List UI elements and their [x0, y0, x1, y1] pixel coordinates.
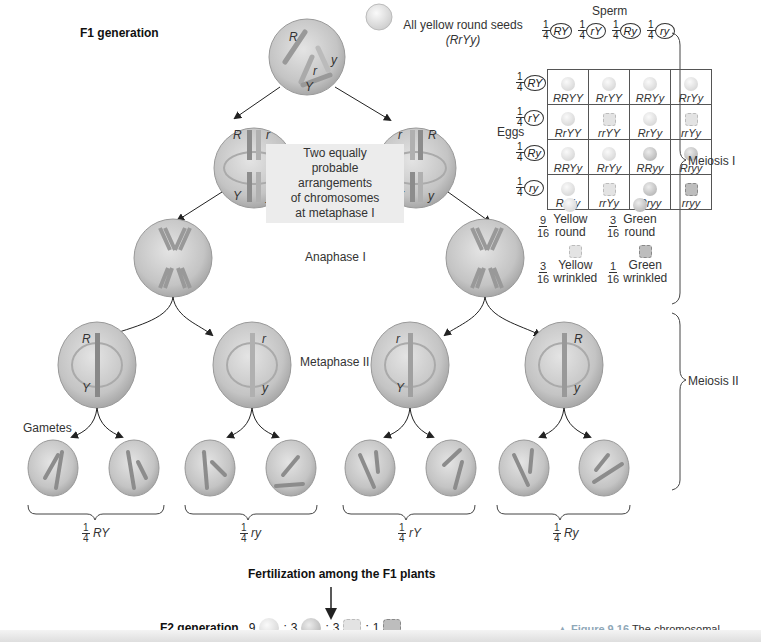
fertilization-label: Fertilization among the F1 plants [248, 567, 435, 581]
punnett-square: RRYY RrYY RRYy RrYy RrYY rrYY RrYy rrYy … [547, 69, 712, 210]
punnett-cell: RrYY [548, 105, 589, 140]
brace-ry [185, 505, 317, 520]
legend-green-wrinkled: 116 Greenwrinkled [607, 243, 677, 285]
legend-yellow-round: 916 Yellowround [537, 196, 607, 239]
allele-label: R [82, 332, 91, 346]
punnett-cell: RRYy [548, 140, 589, 175]
punnett-row: RRYY RrYY RRYy RrYy [548, 70, 712, 105]
anaphase1-cell-left [134, 219, 212, 297]
allele-label: Y [82, 381, 90, 395]
allele-label: y [428, 189, 434, 203]
gamete-group-ry: 14 ry [240, 523, 261, 544]
f1-generation-title: F1 generation [80, 26, 159, 40]
brace-rY [343, 505, 475, 520]
egg-ry: 14ry [516, 177, 546, 198]
f1-seed-label: All yellow round seeds [398, 18, 528, 33]
allele-y: y [331, 53, 337, 67]
allele-label: r [266, 128, 270, 142]
punnett-cell: RRyy [630, 140, 671, 175]
allele-label: R [233, 128, 242, 142]
anaphase1-label: Anaphase I [305, 250, 366, 264]
brace-ry-upper [28, 505, 164, 520]
meiosis2-label: Meiosis II [688, 374, 739, 388]
punnett-cell: RrYy [671, 70, 712, 105]
allele-label: r [262, 332, 266, 346]
brace-Ry [497, 505, 630, 520]
metaphase2-cell-3 [371, 322, 449, 408]
gamete-group-RY: 14 RY [82, 523, 109, 544]
metaphase2-cell-4 [525, 322, 603, 408]
phenotype-legend: 916 Yellowround 316 Greenround 316 Yello… [537, 196, 677, 285]
sperm-label: Sperm [592, 4, 627, 18]
punnett-cell: RrYY [589, 70, 630, 105]
allele-label: y [574, 381, 580, 395]
metaphase2-label: Metaphase II [300, 355, 369, 369]
sperm-RY: 14RY [542, 20, 572, 41]
sperm-header: 14RY 14rY 14Ry 14ry [542, 20, 675, 41]
punnett-cell: RrYy [630, 105, 671, 140]
egg-RY: 14RY [516, 72, 546, 93]
punnett-cell: rrYY [589, 105, 630, 140]
metaphase1-arrangement-note: Two equally probable arrangements of chr… [266, 144, 404, 223]
allele-label: Y [233, 189, 241, 203]
f1-seed-description: All yellow round seeds (RrYy) [398, 18, 528, 48]
f1-genotype: (RrYy) [398, 33, 528, 48]
sperm-Ry: 14Ry [612, 20, 641, 41]
anaphase1-cell-right [446, 219, 524, 297]
yellow-round-seed-icon [366, 4, 392, 30]
eggs-header: 14RY 14rY 14Ry 14ry [516, 72, 546, 198]
allele-r: r [313, 64, 317, 78]
gamete-cells [28, 440, 629, 496]
allele-label: r [398, 128, 402, 142]
punnett-cell: RrYy [589, 140, 630, 175]
punnett-cell: RRYy [630, 70, 671, 105]
punnett-cell: RRYY [548, 70, 589, 105]
legend-green-round: 316 Greenround [607, 196, 677, 239]
allele-R: R [289, 30, 298, 44]
punnett-cell: rrYy [671, 105, 712, 140]
sperm-rY: 14rY [578, 20, 606, 41]
page-bottom-bar [0, 630, 761, 642]
egg-rY: 14rY [516, 107, 546, 128]
allele-label: y [262, 381, 268, 395]
metaphase2-cell-2 [213, 322, 291, 408]
allele-label: R [428, 128, 437, 142]
egg-Ry: 14Ry [516, 142, 546, 163]
meiosis1-label: Meiosis I [688, 154, 735, 168]
allele-label: R [574, 332, 583, 346]
punnett-row: RRYy RrYy RRyy Rryy [548, 140, 712, 175]
punnett-row: RrYY rrYY RrYy rrYy [548, 105, 712, 140]
gamete-group-Ry: 14 Ry [553, 523, 579, 544]
gamete-group-rY: 14 rY [398, 523, 421, 544]
allele-label: Y [396, 381, 404, 395]
allele-label: r [396, 332, 400, 346]
metaphase2-cell-1 [58, 322, 136, 408]
allele-Y: Y [305, 80, 313, 94]
sperm-ry: 14ry [647, 20, 675, 41]
gametes-label: Gametes [23, 421, 72, 435]
meiosis2-brace [672, 313, 686, 490]
legend-yellow-wrinkled: 316 Yellowwrinkled [537, 243, 607, 285]
